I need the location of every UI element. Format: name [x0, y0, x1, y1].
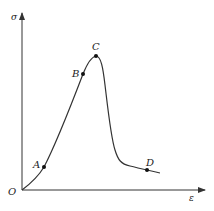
- point-b-label: B: [71, 68, 79, 79]
- point-d-marker: [145, 168, 149, 172]
- x-axis-label: ε: [189, 193, 194, 203]
- point-a-label: A: [32, 159, 40, 170]
- point-c-label: C: [92, 41, 100, 52]
- y-axis-label: σ: [11, 12, 18, 22]
- chart-svg: σ ε O A B C D: [0, 0, 214, 211]
- stress-strain-curve: [22, 56, 160, 190]
- point-d-label: D: [145, 157, 154, 168]
- point-c-marker: [94, 54, 98, 58]
- point-b-marker: [81, 72, 85, 76]
- stress-strain-chart: σ ε O A B C D: [0, 0, 214, 211]
- point-a-marker: [42, 165, 46, 169]
- origin-label: O: [8, 186, 16, 197]
